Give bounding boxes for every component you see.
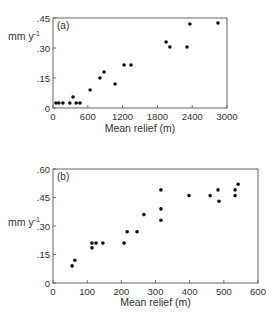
x-tick-label: 0 [50,111,55,122]
data-point [102,70,106,74]
x-tick-label: 600 [80,111,96,122]
panel-label: (b) [57,171,69,182]
data-point [101,241,105,245]
data-point [90,246,94,250]
data-point [236,182,240,186]
data-point [122,63,126,67]
data-point [90,241,94,245]
data-point [164,40,168,44]
data-point [233,194,237,198]
y-tick-label: .15 [37,249,50,260]
data-point [70,264,74,268]
data-point [142,213,146,217]
data-point [68,101,72,105]
data-point [217,200,221,204]
y-tick-label: .30 [37,43,50,54]
x-axis-title: Mean relief (m) [120,296,191,308]
data-point [78,101,82,105]
y-tick-label: .45 [37,192,50,203]
data-point [94,241,98,245]
x-tick-label: 2400 [182,111,203,122]
x-tick-label: 100 [79,286,95,297]
x-tick-label: 1200 [112,111,133,122]
figure: 060012001800240030000.15.30.45(a)Mean re… [0,0,274,320]
data-point [98,76,102,80]
y-tick-label: .15 [37,73,50,84]
data-point [122,241,126,245]
x-tick-label: 1800 [147,111,168,122]
data-point [159,219,163,223]
x-tick-label: 0 [50,286,55,297]
chart-panel-a: 060012001800240030000.15.30.45(a)Mean re… [8,13,238,135]
y-tick-label: 0 [45,278,50,289]
data-point [208,194,212,198]
data-point [188,22,192,26]
y-tick-label: .45 [37,13,50,24]
x-tick-label: 600 [250,286,266,297]
x-axis-title: Mean relief (m) [105,122,176,134]
data-point [129,63,133,67]
y-tick-label: .60 [37,164,50,175]
data-point [159,207,163,211]
panel-label: (a) [57,20,69,31]
data-point [159,188,163,192]
data-point [113,82,117,86]
data-point [168,45,172,49]
data-point [216,188,220,192]
y-axis-title: mm y-1 [8,216,40,228]
y-axis-title: mm y-1 [8,30,40,42]
data-point [233,188,237,192]
data-point [71,95,75,99]
data-point [61,101,65,105]
data-point [185,45,189,49]
data-point [135,230,139,234]
data-point [187,194,191,198]
y-tick-label: 0 [45,103,50,114]
plot-frame [53,18,227,108]
plot-frame [53,169,258,283]
data-point [57,101,61,105]
data-point [125,230,129,234]
data-point [88,88,92,92]
x-tick-label: 3000 [216,111,237,122]
data-point [73,258,77,262]
chart-panel-b: 01002003004005006000.15.30.45.60(b)Mean … [8,164,266,309]
data-point [74,101,78,105]
x-tick-label: 500 [216,286,232,297]
data-point [216,21,220,25]
